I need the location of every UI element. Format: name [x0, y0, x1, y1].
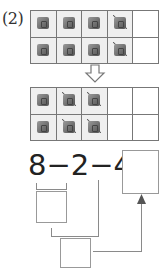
cell [56, 11, 82, 38]
cell-empty [133, 11, 159, 38]
cell [82, 88, 108, 115]
cell-empty [133, 114, 159, 141]
cell [82, 114, 108, 141]
top-grid-row-2 [31, 37, 159, 64]
connector-bottom [51, 236, 99, 237]
result-arrow-horizontal [93, 251, 142, 252]
cell [82, 11, 108, 38]
step2-box[interactable] [60, 238, 91, 268]
cell [82, 37, 108, 64]
cube-icon [62, 42, 76, 56]
cell [107, 37, 133, 64]
cube-icon [62, 15, 76, 29]
cell [31, 37, 57, 64]
cell [56, 88, 82, 115]
cube-icon [36, 119, 50, 133]
cube-icon [36, 42, 50, 56]
cube-icon [87, 42, 101, 56]
connector-left [51, 228, 52, 237]
crossed-cube-icon [113, 42, 127, 56]
cell [31, 114, 57, 141]
cell-empty [107, 88, 133, 115]
bracket-bottom [36, 189, 67, 190]
cube-icon [87, 15, 101, 29]
step1-box[interactable] [36, 191, 67, 223]
cell [56, 37, 82, 64]
connector-from-4 [98, 180, 99, 237]
result-arrow-vertical [141, 202, 142, 252]
cube-icon [36, 15, 50, 29]
down-arrow-icon [84, 64, 106, 84]
bottom-grid-row-1 [31, 88, 159, 115]
bottom-grid-row-2 [31, 114, 159, 141]
cell [107, 11, 133, 38]
cell [31, 88, 57, 115]
answer-box[interactable] [122, 150, 159, 194]
cell-empty [133, 88, 159, 115]
cube-icon [36, 92, 50, 106]
cell [56, 114, 82, 141]
crossed-cube-icon [87, 119, 101, 133]
crossed-cube-icon [87, 92, 101, 106]
crossed-cube-icon [62, 119, 76, 133]
top-grid-row-1 [31, 11, 159, 38]
up-arrowhead-icon [137, 194, 146, 204]
cell-empty [133, 37, 159, 64]
crossed-cube-icon [113, 15, 127, 29]
cell [31, 11, 57, 38]
bottom-cube-grid [30, 87, 159, 141]
problem-label: (2) [2, 9, 23, 28]
cell-empty [107, 114, 133, 141]
crossed-cube-icon [62, 92, 76, 106]
top-cube-grid [30, 10, 159, 64]
